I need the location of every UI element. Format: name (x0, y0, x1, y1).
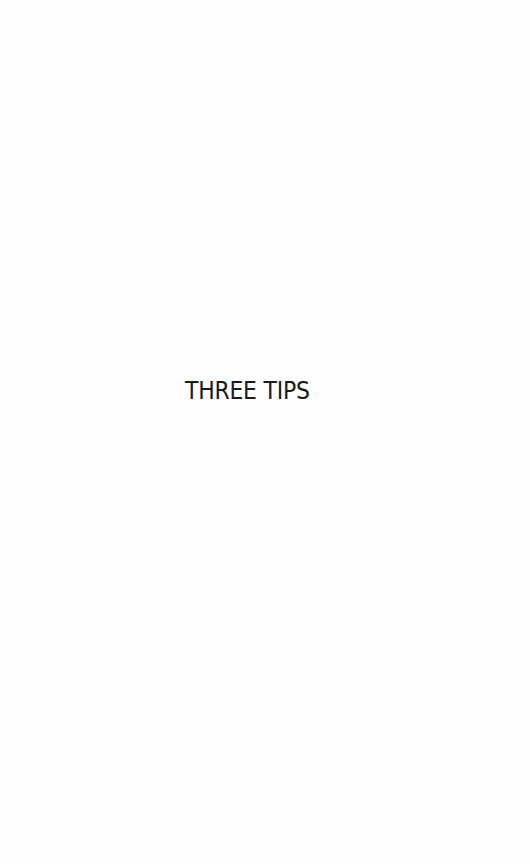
section-title: THREE TIPS (185, 376, 310, 405)
document-page: THREE TIPS (0, 0, 531, 864)
